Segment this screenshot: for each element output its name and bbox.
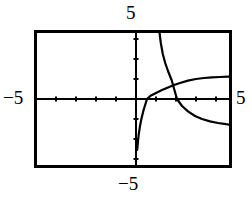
- axis-label-bottom: −5: [118, 174, 138, 193]
- axis-label-right: 5: [236, 88, 246, 107]
- axis-label-top: 5: [126, 3, 136, 22]
- graph-figure: 5 −5 −5 5: [0, 0, 252, 199]
- axis-label-left: −5: [3, 88, 23, 107]
- plot-curves: [137, 0, 236, 150]
- curve-rising-logarithmic-curve: [137, 77, 236, 150]
- curve-falling-steep-curve: [157, 0, 236, 125]
- plot-axes: [37, 33, 229, 165]
- plot-canvas: [0, 0, 252, 199]
